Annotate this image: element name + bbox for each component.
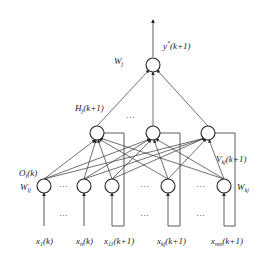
bottom-ellipsis-3: ··· <box>196 210 205 220</box>
input-ellipsis-2: ··· <box>140 181 149 191</box>
output-node <box>146 58 160 72</box>
input-label-xmn: xmn(k+1) <box>210 236 243 247</box>
output-weight-label: Wj <box>114 56 124 67</box>
input-label-xkj: xkj(k+1) <box>156 236 186 247</box>
hidden-node-2 <box>146 126 160 140</box>
input-ellipsis-1: ··· <box>59 181 68 191</box>
hidden-node-3 <box>201 126 215 140</box>
hidden-output-edges <box>97 70 208 126</box>
rnn-diagram: ··· ··· ··· ··· ··· ··· ··· y*(k+1) Wj H… <box>0 0 265 261</box>
context-node-kj <box>161 179 175 193</box>
bottom-ellipsis-1: ··· <box>59 210 68 220</box>
input-label-x11: x11(k+1) <box>103 236 134 247</box>
hidden-ellipsis: ··· <box>126 112 135 122</box>
hidden-label: Hj(k+1) <box>74 103 104 114</box>
input-label-x1: x1(k) <box>35 236 53 247</box>
input-output-label: Oi(k) <box>19 168 37 179</box>
input-label-xn: xn(k) <box>75 236 93 247</box>
input-hidden-edges <box>44 138 224 179</box>
weight-ij-label: Wij <box>20 182 31 193</box>
weight-kj-label: Wkj <box>237 182 249 193</box>
bottom-ellipsis-2: ··· <box>140 210 149 220</box>
input-node-n <box>77 179 91 193</box>
context-node-11 <box>105 179 119 193</box>
input-ellipsis-3: ··· <box>196 181 205 191</box>
v-kj-label: Vkj(k+1) <box>216 154 246 165</box>
context-node-mn <box>217 179 231 193</box>
hidden-node-1 <box>90 126 104 140</box>
output-label: y*(k+1) <box>162 40 191 51</box>
input-node-1 <box>37 179 51 193</box>
